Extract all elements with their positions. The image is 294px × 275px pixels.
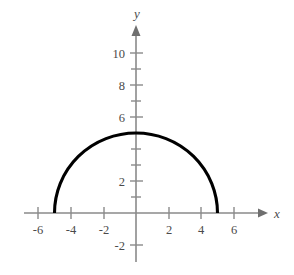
y-axis-label: y	[132, 6, 140, 21]
graph-figure: -6 -4 -2 2 4 6 10 8 6 2 -2 x y	[0, 0, 294, 275]
x-axis-arrow-icon	[258, 209, 268, 218]
y-tick-label-10: 10	[113, 47, 126, 61]
x-tick-label-pos6: 6	[231, 223, 237, 237]
x-tick-label-neg4: -4	[66, 223, 77, 237]
coordinate-plot: -6 -4 -2 2 4 6 10 8 6 2 -2 x y	[0, 0, 294, 275]
y-tick-label-6: 6	[119, 111, 125, 125]
x-tick-label-pos4: 4	[198, 223, 205, 237]
x-tick-label-neg2: -2	[99, 223, 109, 237]
x-tick-label-pos2: 2	[166, 223, 172, 237]
y-tick-label-8: 8	[119, 79, 125, 93]
y-tick-label-neg2: -2	[115, 239, 125, 253]
x-tick-label-neg6: -6	[33, 223, 43, 237]
y-axis-arrow-icon	[132, 25, 141, 36]
x-axis-label: x	[273, 206, 280, 221]
y-tick-label-2: 2	[119, 175, 125, 189]
